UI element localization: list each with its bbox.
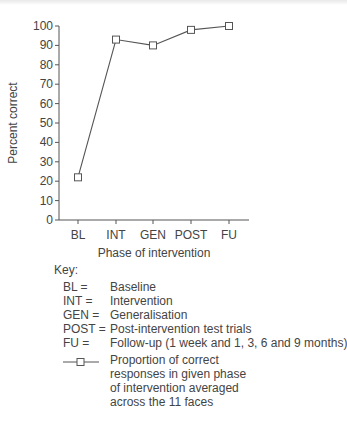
x-tick-label: POST bbox=[175, 228, 208, 242]
legend-line: of intervention averaged bbox=[110, 381, 310, 395]
key-item: FU =Follow-up (1 week and 1, 3, 6 and 9 … bbox=[63, 336, 347, 350]
legend-text: Proportion of correct responses in given… bbox=[110, 353, 310, 409]
open-square-marker-icon bbox=[63, 357, 99, 367]
open-square-marker-icon bbox=[113, 36, 120, 43]
x-axis: BLINTGENPOSTFU bbox=[59, 220, 249, 242]
legend-line: Proportion of correct bbox=[110, 353, 310, 367]
key-abbr: BL = bbox=[63, 280, 110, 294]
key-abbr: POST = bbox=[63, 322, 110, 336]
key-item: GEN =Generalisation bbox=[63, 308, 347, 322]
key-meaning: Baseline bbox=[110, 280, 156, 294]
x-tick-label: FU bbox=[221, 228, 237, 242]
y-tick-label: 20 bbox=[40, 174, 54, 188]
data-series bbox=[75, 23, 233, 181]
key-item: BL =Baseline bbox=[63, 280, 347, 294]
key-abbr: FU = bbox=[63, 336, 110, 350]
key-meaning: Generalisation bbox=[110, 308, 187, 322]
key-meaning: Follow-up (1 week and 1, 3, 6 and 9 mont… bbox=[110, 336, 347, 350]
y-axis-title: Percent correct bbox=[6, 82, 20, 164]
legend-line: across the 11 faces bbox=[110, 395, 310, 409]
legend-line: responses in given phase bbox=[110, 367, 310, 381]
open-square-marker-icon bbox=[150, 42, 157, 49]
open-square-marker-icon bbox=[226, 23, 233, 30]
y-tick-label: 0 bbox=[46, 213, 53, 227]
line-chart: 0102030405060708090100 BLINTGENPOSTFU Pe… bbox=[0, 0, 347, 260]
y-axis: 0102030405060708090100 bbox=[33, 19, 59, 227]
y-tick-label: 80 bbox=[40, 58, 54, 72]
key-abbr: INT = bbox=[63, 294, 110, 308]
key-abbr: GEN = bbox=[63, 308, 110, 322]
y-tick-label: 90 bbox=[40, 38, 54, 52]
key-item: POST =Post-intervention test trials bbox=[63, 322, 347, 336]
y-tick-label: 50 bbox=[40, 116, 54, 130]
y-tick-label: 40 bbox=[40, 135, 54, 149]
y-tick-label: 10 bbox=[40, 194, 54, 208]
y-tick-label: 100 bbox=[33, 19, 53, 33]
key-item: INT =Intervention bbox=[63, 294, 347, 308]
open-square-marker-icon bbox=[75, 174, 82, 181]
y-tick-label: 60 bbox=[40, 97, 54, 111]
key-list: BL =Baseline INT =Intervention GEN =Gene… bbox=[63, 280, 347, 350]
open-square-marker-icon bbox=[188, 26, 195, 33]
x-tick-label: INT bbox=[106, 228, 126, 242]
key-meaning: Intervention bbox=[110, 294, 173, 308]
x-tick-label: BL bbox=[71, 228, 86, 242]
y-tick-label: 30 bbox=[40, 155, 54, 169]
y-tick-label: 70 bbox=[40, 77, 54, 91]
x-axis-title: Phase of intervention bbox=[98, 246, 211, 260]
key-title: Key: bbox=[54, 263, 78, 277]
key-meaning: Post-intervention test trials bbox=[110, 322, 251, 336]
x-tick-label: GEN bbox=[140, 228, 166, 242]
